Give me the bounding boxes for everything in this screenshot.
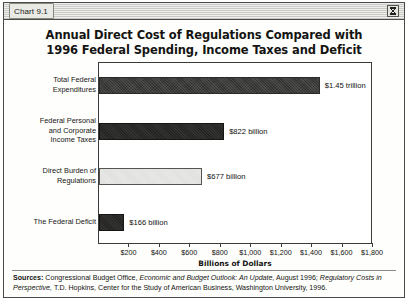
axis-tick-label: $1,200: [270, 248, 292, 257]
category-label-line: Total Federal: [10, 75, 96, 85]
chart-sheet: Annual Direct Cost of Regulations Compar…: [4, 20, 404, 297]
category-label-line: Regulations: [10, 176, 96, 186]
chart-title-line2: 1996 Federal Spending, Income Taxes and …: [4, 43, 404, 58]
chart-title: Annual Direct Cost of Regulations Compar…: [4, 28, 404, 58]
x-axis-label: Billions of Dollars: [98, 259, 372, 268]
axis-tick-label: $400: [151, 248, 167, 257]
bar-value-label: $1.45 trillion: [325, 77, 366, 94]
sources-label: Sources:: [13, 274, 43, 282]
plot-frame: $1.45 trillion$822 billion$677 billion$1…: [98, 62, 372, 244]
chart-window: Chart 9.1 Annual Direct Cost of Regulati…: [3, 2, 405, 298]
bar: [99, 77, 320, 94]
category-label-line: Expenditures: [10, 85, 96, 95]
axis-tick: [128, 243, 129, 247]
category-label-line: Direct Burden of: [10, 166, 96, 176]
axis-tick: [159, 243, 160, 247]
category-label: Total FederalExpenditures: [10, 75, 96, 94]
category-label-line: Federal Personal: [10, 116, 96, 126]
axis-tick-label: $1,600: [331, 248, 353, 257]
hourglass-icon[interactable]: [387, 5, 399, 17]
category-label: Direct Burden ofRegulations: [10, 166, 96, 185]
sources-divider: [12, 270, 396, 271]
bar-value-label: $166 billion: [129, 214, 167, 231]
bar: [99, 123, 224, 140]
bar-value-label: $677 billion: [207, 168, 245, 185]
bar: [99, 214, 124, 231]
category-label: Federal Personaland CorporateIncome Taxe…: [10, 116, 96, 145]
axis-tick-label: $1,800: [361, 248, 383, 257]
window-title: Chart 9.1: [14, 7, 48, 16]
axis-tick-label: $600: [181, 248, 197, 257]
bar: [99, 168, 202, 185]
axis-tick: [372, 243, 373, 247]
axis-tick-label: $1,000: [239, 248, 261, 257]
sources-part3: T.D. Hopkins, Center for the Study of Am…: [52, 284, 327, 292]
axis-tick: [250, 243, 251, 247]
axis-tick-label: $800: [212, 248, 228, 257]
sources-italic1: Economic and Budget Outlook: An Update,: [139, 274, 274, 282]
axis-tick: [342, 243, 343, 247]
sources-part1: Congressional Budget Office,: [43, 274, 139, 282]
window-title-bar[interactable]: Chart 9.1: [4, 3, 404, 20]
axis-tick-label: $1,400: [300, 248, 322, 257]
category-label-line: The Federal Deficit: [10, 217, 96, 227]
axis-tick: [281, 243, 282, 247]
axis-tick: [189, 243, 190, 247]
window-title-box: Chart 9.1: [9, 3, 54, 19]
axis-tick: [220, 243, 221, 247]
category-label-line: and Corporate: [10, 126, 96, 136]
sources-part2: August 1996;: [274, 274, 319, 282]
category-label-line: Income Taxes: [10, 135, 96, 145]
sources-note: Sources: Congressional Budget Office, Ec…: [13, 274, 395, 293]
plot-area: Total FederalExpendituresFederal Persona…: [4, 62, 404, 262]
hourglass-glyph: [390, 7, 396, 15]
axis-tick-label: $200: [120, 248, 136, 257]
axis-tick: [311, 243, 312, 247]
bar-value-label: $822 billion: [229, 123, 267, 140]
chart-title-line1: Annual Direct Cost of Regulations Compar…: [46, 28, 363, 42]
category-label: The Federal Deficit: [10, 217, 96, 227]
